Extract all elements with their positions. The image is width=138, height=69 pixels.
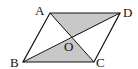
label-o: O	[64, 39, 73, 54]
diagram-svg: A D B C O	[0, 0, 138, 69]
label-c: C	[96, 55, 105, 69]
label-d: D	[123, 5, 132, 20]
shaded-triangle-aod	[50, 13, 120, 38]
label-b: B	[10, 55, 19, 69]
parallelogram-diagram: A D B C O	[0, 0, 138, 69]
label-a: A	[35, 3, 45, 18]
